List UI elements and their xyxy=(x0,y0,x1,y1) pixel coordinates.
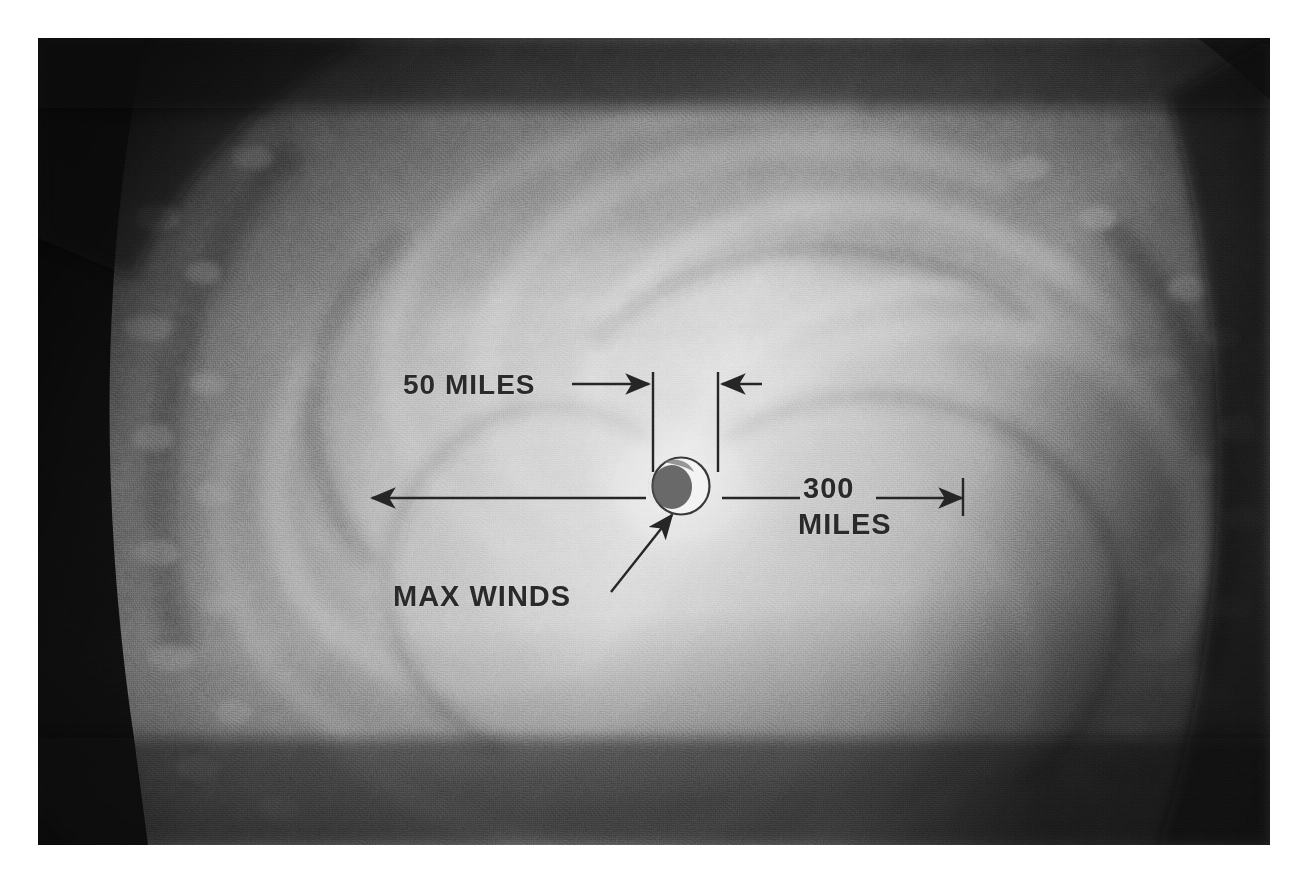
radius-value-label: 300 xyxy=(803,472,854,505)
hurricane-satellite-photo xyxy=(38,38,1270,845)
page-root: 50 MILES 300 MILES MAX WINDS xyxy=(0,0,1309,883)
radius-unit-label: MILES xyxy=(798,508,892,541)
hurricane-photo-graphic xyxy=(38,38,1270,845)
max-winds-label: MAX WINDS xyxy=(393,580,571,613)
eye-span-label: 50 MILES xyxy=(403,369,535,401)
